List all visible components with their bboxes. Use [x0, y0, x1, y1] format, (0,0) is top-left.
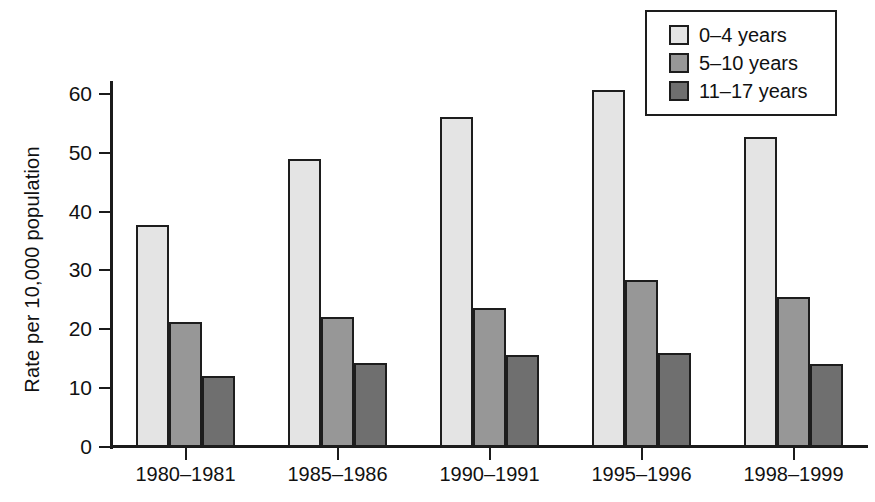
- legend-item-1[interactable]: 5–10 years: [647, 49, 835, 77]
- bar-2-0: [440, 117, 473, 447]
- y-tick-label-text: 40: [46, 201, 92, 222]
- plot-area: [113, 82, 868, 447]
- bar-1-1: [321, 317, 354, 447]
- y-tick-label-60: 60: [42, 83, 92, 104]
- bar-0-1: [169, 322, 202, 447]
- y-tick-label-text: 0: [46, 436, 92, 457]
- y-tick-20: [99, 328, 113, 330]
- y-axis-title: Rate per 10,000 population: [21, 120, 44, 420]
- legend-label-1: 5–10 years: [699, 53, 798, 73]
- y-tick-60: [99, 93, 113, 95]
- bar-2-2: [506, 355, 539, 447]
- y-tick-label-0: 0: [42, 436, 92, 457]
- bar-4-2: [810, 364, 843, 447]
- bar-2-1: [473, 308, 506, 447]
- y-tick-label-40: 40: [42, 201, 92, 222]
- x-tick-label-4: 1998–1999: [704, 462, 875, 486]
- legend-swatch-icon-1: [669, 53, 689, 73]
- bar-0-2: [202, 376, 235, 447]
- y-tick-label-text: 60: [46, 83, 92, 104]
- y-tick-label-text: 20: [46, 318, 92, 339]
- bar-4-0: [744, 137, 777, 447]
- legend: 0–4 years 5–10 years 11–17 years: [645, 10, 837, 116]
- x-tick-3: [641, 447, 643, 460]
- legend-item-0[interactable]: 0–4 years: [647, 21, 835, 49]
- y-tick-40: [99, 211, 113, 213]
- y-tick-label-30: 30: [42, 259, 92, 280]
- x-tick-0: [185, 447, 187, 460]
- bar-1-0: [288, 159, 321, 447]
- x-tick-4: [793, 447, 795, 460]
- x-tick-2: [489, 447, 491, 460]
- bar-3-1: [625, 280, 658, 447]
- legend-swatch-icon-2: [669, 81, 689, 101]
- bar-3-2: [658, 353, 691, 447]
- y-tick-label-text: 50: [46, 142, 92, 163]
- bar-0-0: [136, 225, 169, 447]
- bar-4-1: [777, 297, 810, 447]
- y-tick-30: [99, 269, 113, 271]
- y-tick-50: [99, 152, 113, 154]
- legend-label-2: 11–17 years: [699, 81, 808, 101]
- legend-label-0: 0–4 years: [699, 25, 787, 45]
- y-tick-label-20: 20: [42, 318, 92, 339]
- y-tick-label-10: 10: [42, 377, 92, 398]
- bar-3-0: [592, 90, 625, 447]
- y-tick-label-text: 10: [46, 377, 92, 398]
- legend-swatch-icon-0: [669, 25, 689, 45]
- bar-chart: Rate per 10,000 population 0102030405060…: [0, 0, 875, 502]
- y-tick-0: [99, 446, 113, 448]
- legend-item-2[interactable]: 11–17 years: [647, 77, 835, 105]
- y-tick-label-50: 50: [42, 142, 92, 163]
- bar-1-2: [354, 363, 387, 447]
- x-tick-1: [337, 447, 339, 460]
- y-tick-10: [99, 387, 113, 389]
- y-tick-label-text: 30: [46, 259, 92, 280]
